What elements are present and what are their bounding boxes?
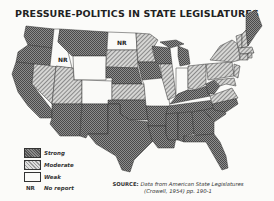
strong-swatch — [24, 148, 41, 158]
state-wy — [73, 56, 106, 80]
nr-abbreviation: NR — [26, 185, 44, 191]
legend-item-moderate: Moderate — [24, 159, 74, 171]
legend-label-moderate: Moderate — [44, 162, 74, 168]
state-fl — [184, 134, 228, 170]
state-ms — [166, 113, 178, 140]
state-nm — [80, 104, 108, 138]
legend-label-strong: Strong — [44, 150, 65, 156]
map-legend: Strong Moderate Weak NR No report — [24, 147, 74, 191]
weak-swatch — [24, 172, 41, 182]
state-ct — [240, 54, 248, 60]
state-co — [82, 80, 112, 104]
legend-item-weak: Weak — [24, 171, 74, 183]
state-nj — [234, 64, 240, 78]
state-az — [50, 104, 82, 136]
moderate-swatch — [24, 160, 41, 170]
state-mi — [178, 46, 190, 66]
source-line-2: (Crowell, 1954) pp. 190-1 — [144, 188, 212, 194]
source-line-1: Data from American State Legislatures — [140, 181, 243, 187]
state-ar — [146, 106, 168, 126]
state-sd — [106, 50, 138, 68]
north-dakota-nr-label: NR — [117, 39, 127, 46]
source-prefix: SOURCE: — [112, 181, 138, 187]
state-ia — [138, 62, 162, 80]
state-oh — [188, 64, 206, 90]
state-ri — [248, 53, 252, 58]
idaho-nr-label: NR — [58, 56, 68, 63]
state-ks — [112, 84, 146, 100]
state-wa — [24, 26, 54, 48]
state-pa — [206, 62, 234, 80]
source-note: SOURCE: Data from American State Legisla… — [108, 181, 248, 195]
state-ny — [210, 40, 240, 62]
legend-item-no-report: NR No report — [24, 185, 74, 191]
legend-label-weak: Weak — [44, 174, 61, 180]
state-me — [246, 10, 262, 46]
legend-item-strong: Strong — [24, 147, 74, 159]
legend-label-no-report: No report — [44, 185, 74, 191]
